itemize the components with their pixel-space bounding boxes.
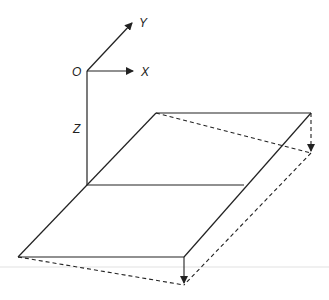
x-axis-label: X [140, 65, 150, 79]
y-axis-arrow [87, 23, 132, 71]
deflected-right-edge [184, 153, 311, 285]
origin-label: O [72, 65, 81, 79]
y-axis-label: Y [139, 16, 148, 30]
deflected-bottom-edge [18, 257, 184, 285]
deflected-top-edge [156, 113, 311, 153]
deflection-arrows [184, 113, 311, 283]
plate-outline [18, 113, 311, 257]
deflected-plate-outline [18, 113, 311, 285]
plate-diagram: O X Y Z [0, 0, 329, 300]
z-axis-label: Z [72, 122, 81, 136]
